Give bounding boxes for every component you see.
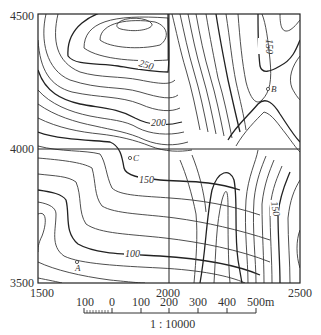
- scale-ratio: 1 : 10000: [150, 318, 195, 330]
- svg-text:C: C: [133, 153, 140, 163]
- svg-text:150: 150: [139, 174, 154, 185]
- y-axis-label-top: 4500: [10, 10, 34, 22]
- scale-tick-label: 0: [109, 296, 115, 308]
- svg-text:100: 100: [125, 248, 140, 259]
- scale-tick-label: 200: [160, 296, 178, 308]
- svg-text:150: 150: [264, 39, 275, 54]
- scale-tick-label: 100: [76, 296, 94, 308]
- svg-text:A: A: [74, 263, 81, 273]
- point-a: A: [74, 260, 81, 273]
- point-c: C: [128, 153, 140, 163]
- svg-text:200: 200: [151, 117, 166, 128]
- svg-text:B: B: [271, 84, 277, 94]
- scale-tick-label: 500m: [247, 296, 274, 308]
- scale-tick-label: 400: [218, 296, 236, 308]
- y-axis-label-middle: 4000: [10, 143, 34, 155]
- x-axis-label-left: 1500: [30, 287, 54, 299]
- scale-tick-label: 300: [189, 296, 207, 308]
- scale-tick-label: 100: [132, 296, 150, 308]
- x-axis-label-right: 2500: [288, 287, 312, 299]
- topographic-map: 250 200 150 150 150 100 A B C: [0, 0, 321, 335]
- point-b: B: [266, 84, 277, 94]
